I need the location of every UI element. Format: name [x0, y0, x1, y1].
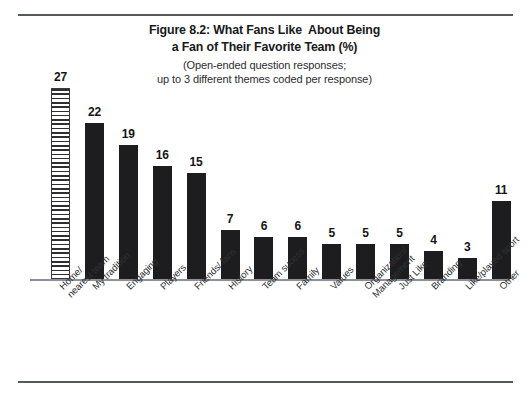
bar-group: 7	[221, 0, 240, 279]
bar-value-label: 19	[105, 127, 151, 141]
bar-group: 16	[153, 0, 172, 279]
bar-group: 27	[51, 0, 70, 279]
bar-group: 5	[356, 0, 375, 279]
bar-value-label: 22	[71, 105, 117, 119]
chart-plot-area: 27221916157665554311 Home/nearest teamMy…	[0, 0, 529, 396]
bar[interactable]	[51, 88, 70, 279]
bar-value-label: 27	[38, 70, 84, 84]
bar[interactable]	[187, 173, 206, 279]
bar-group: 19	[119, 0, 138, 279]
bar-group: 4	[424, 0, 443, 279]
bar-group: 6	[288, 0, 307, 279]
bar-group: 5	[390, 0, 409, 279]
bar-value-label: 11	[478, 183, 524, 197]
bar-group: 6	[254, 0, 273, 279]
bar-group: 22	[85, 0, 104, 279]
figure-container: Figure 8.2: What Fans Like About Being a…	[0, 0, 529, 396]
bar-group: 3	[458, 0, 477, 279]
bar-group: 11	[492, 0, 511, 279]
bar-value-label: 15	[173, 155, 219, 169]
bar-value-label: 3	[444, 240, 490, 254]
bar-group: 15	[187, 0, 206, 279]
bar-group: 5	[322, 0, 341, 279]
